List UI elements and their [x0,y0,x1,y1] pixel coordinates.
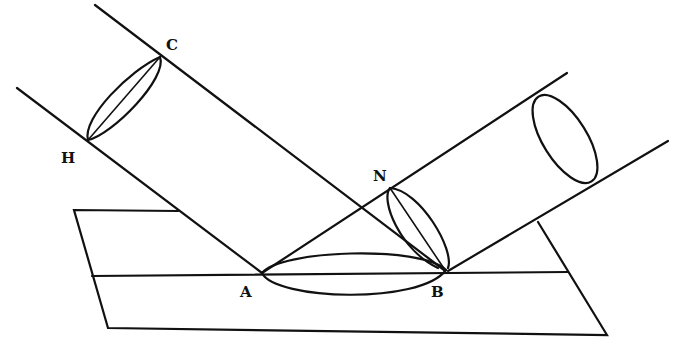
reflected-cross-section-far [520,85,610,193]
incident-ray-lower [17,88,262,273]
reflected-ray-lower [448,141,668,271]
label-h: H [61,149,75,167]
diagram-canvas: C H N A B [0,0,679,354]
reflecting-plane [74,210,607,335]
label-n: N [373,167,387,185]
label-a: A [239,283,252,301]
label-b: B [431,283,444,301]
incident-ray-upper [95,5,444,270]
incident-cross-section [87,57,160,140]
reflected-ray-upper [262,73,567,273]
surface-line [92,272,568,276]
reflected-beam [262,73,668,273]
label-c: C [166,36,178,54]
